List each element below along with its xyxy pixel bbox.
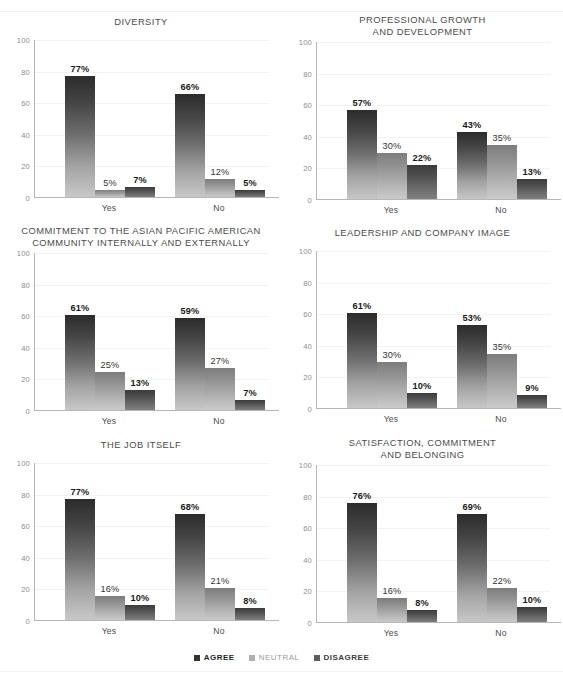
bar-agree[interactable]: 77% [65, 76, 95, 198]
legend-label: NEUTRAL [259, 653, 300, 662]
y-axis-tick: 0 [26, 407, 30, 416]
x-axis-tick: Yes [384, 205, 399, 215]
bar-disagree[interactable]: 9% [517, 395, 547, 409]
y-axis-tick: 100 [17, 36, 30, 45]
bar-value-label: 30% [383, 141, 402, 151]
bar-agree[interactable]: 69% [457, 514, 487, 623]
y-axis-labels: 100806040200 [2, 463, 30, 621]
chart-title: PROFESSIONAL GROWTH AND DEVELOPMENT [282, 14, 563, 37]
bar-agree[interactable]: 68% [175, 514, 205, 621]
bar-value-label: 35% [493, 133, 512, 143]
y-axis-tick: 80 [303, 69, 312, 78]
chart-title: THE JOB ITSELF [0, 439, 282, 451]
chart-panel: PROFESSIONAL GROWTH AND DEVELOPMENT10080… [282, 12, 563, 223]
y-axis-labels: 100806040200 [284, 42, 312, 200]
plot-inner: 61%30%10%53%35%9% [316, 251, 550, 409]
bar-neutral[interactable]: 22% [487, 588, 517, 623]
footer-divider [0, 671, 563, 672]
bar-agree[interactable]: 66% [175, 94, 205, 198]
bar-neutral[interactable]: 35% [487, 354, 517, 409]
y-axis-tick: 60 [303, 310, 312, 319]
bar-value-label: 77% [71, 64, 90, 74]
x-axis-line [35, 410, 279, 411]
bar-neutral[interactable]: 12% [205, 179, 235, 198]
x-axis-tick: No [213, 203, 224, 213]
chart-title: SATISFACTION, COMMITMENT AND BELONGING [282, 437, 563, 460]
bar-value-label: 22% [493, 576, 512, 586]
y-axis-tick: 80 [21, 280, 30, 289]
bar-value-label: 30% [383, 350, 402, 360]
plot-area: 10080604020076%16%8%69%22%10%YesNo [316, 465, 550, 623]
bar-agree[interactable]: 61% [65, 315, 95, 411]
bar-neutral[interactable]: 27% [205, 368, 235, 411]
bar-agree[interactable]: 61% [347, 313, 377, 409]
y-axis-tick: 80 [21, 490, 30, 499]
legend-item-disagree[interactable]: DISAGREE [314, 653, 370, 662]
bar-agree[interactable]: 53% [457, 325, 487, 409]
bar-value-label: 53% [463, 313, 482, 323]
bar-value-label: 43% [463, 120, 482, 130]
bar-value-label: 22% [413, 153, 432, 163]
plot-inner: 77%5%7%66%12%5% [34, 40, 268, 198]
y-axis-tick: 100 [299, 247, 312, 256]
bar-value-label: 21% [211, 576, 230, 586]
y-axis-tick: 100 [17, 459, 30, 468]
chart-panel: DIVERSITY10080604020077%5%7%66%12%5%YesN… [0, 12, 282, 223]
bar-neutral[interactable]: 25% [95, 372, 125, 412]
legend-label: AGREE [204, 653, 235, 662]
bar-neutral[interactable]: 16% [95, 596, 125, 621]
bar-neutral[interactable]: 35% [487, 145, 517, 200]
bar-disagree[interactable]: 10% [125, 605, 155, 621]
bar-agree[interactable]: 59% [175, 318, 205, 411]
bar-agree[interactable]: 57% [347, 110, 377, 200]
y-axis-tick: 60 [21, 312, 30, 321]
plot-area: 10080604020077%5%7%66%12%5%YesNo [34, 40, 268, 198]
y-axis-tick: 100 [299, 38, 312, 47]
bar-disagree[interactable]: 10% [407, 393, 437, 409]
plot-area: 10080604020057%30%22%43%35%13%YesNo [316, 42, 550, 200]
bar-agree[interactable]: 77% [65, 499, 95, 621]
y-axis-tick: 100 [299, 461, 312, 470]
y-axis-tick: 40 [303, 132, 312, 141]
bar-value-label: 9% [525, 383, 539, 393]
plot-area: 10080604020061%30%10%53%35%9%YesNo [316, 251, 550, 409]
x-axis-line [317, 622, 561, 623]
bar-agree[interactable]: 43% [457, 132, 487, 200]
bar-value-label: 16% [101, 584, 120, 594]
y-axis-tick: 0 [26, 617, 30, 626]
bar-disagree[interactable]: 13% [125, 390, 155, 411]
bar-neutral[interactable]: 16% [377, 598, 407, 623]
x-axis-labels: YesNo [34, 200, 278, 216]
bar-value-label: 13% [523, 167, 542, 177]
x-axis-tick: Yes [384, 414, 399, 424]
y-axis-tick: 0 [26, 194, 30, 203]
x-axis-tick: No [213, 626, 224, 636]
bar-disagree[interactable]: 22% [407, 165, 437, 200]
bar-value-label: 13% [131, 378, 150, 388]
x-axis-tick: Yes [102, 626, 117, 636]
x-axis-tick: Yes [102, 416, 117, 426]
y-axis-tick: 80 [21, 67, 30, 76]
y-axis-labels: 100806040200 [284, 465, 312, 623]
x-axis-labels: YesNo [316, 202, 560, 218]
legend-item-neutral[interactable]: NEUTRAL [249, 653, 300, 662]
y-axis-tick: 40 [303, 555, 312, 564]
legend-item-agree[interactable]: AGREE [194, 653, 235, 662]
chart-title: LEADERSHIP AND COMPANY IMAGE [282, 227, 563, 239]
plot-inner: 57%30%22%43%35%13% [316, 42, 550, 200]
y-axis-tick: 20 [303, 164, 312, 173]
bar-value-label: 5% [243, 178, 257, 188]
bar-neutral[interactable]: 30% [377, 153, 407, 200]
chart-title: COMMITMENT TO THE ASIAN PACIFIC AMERICAN… [0, 225, 282, 248]
bar-disagree[interactable]: 10% [517, 607, 547, 623]
bar-disagree[interactable]: 13% [517, 179, 547, 200]
bar-neutral[interactable]: 30% [377, 362, 407, 409]
bar-neutral[interactable]: 21% [205, 588, 235, 621]
bar-value-label: 10% [413, 381, 432, 391]
legend-swatch-icon [249, 655, 255, 661]
bar-value-label: 77% [71, 487, 90, 497]
x-axis-labels: YesNo [34, 413, 278, 429]
bar-value-label: 61% [71, 303, 90, 313]
bar-agree[interactable]: 76% [347, 503, 377, 623]
bar-value-label: 59% [181, 306, 200, 316]
